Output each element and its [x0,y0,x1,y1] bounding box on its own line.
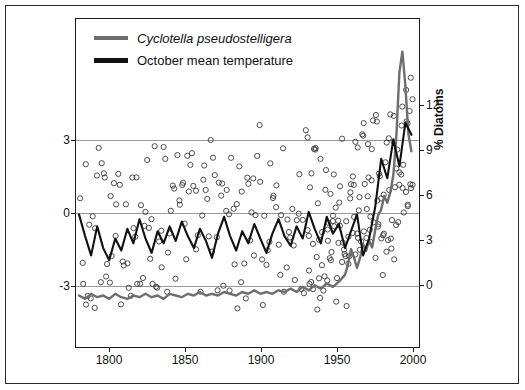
scatter-point [251,253,256,258]
y-tick-right-3: 3 [426,233,433,247]
legend-label-cyclotella: Cyclotella pseudostelligera [137,31,292,46]
tickmark-right-9 [419,150,424,151]
scatter-point [239,189,244,194]
scatter-point [148,256,153,261]
scatter-point [369,147,374,152]
scatter-point [392,257,397,262]
scatter-point [165,250,170,255]
scatter-point [329,249,334,254]
scatter-point [237,164,242,169]
scatter-point [319,263,324,268]
y-axis-right-title: % Diatoms [432,0,450,150]
scatter-point [325,278,330,283]
scatter-points-group [78,75,416,312]
scatter-point [83,302,88,307]
scatter-point [373,255,378,260]
scatter-point [301,291,306,296]
scatter-point [161,144,166,149]
scatter-point [258,179,263,184]
scatter-point [303,128,308,133]
scatter-point [235,306,240,311]
scatter-point [80,260,85,265]
scatter-point [309,171,314,176]
scatter-point [279,213,284,218]
y-tick-right-1: 9 [426,143,433,157]
scatter-point [300,217,305,222]
scatter-point [389,246,394,251]
scatter-point [229,155,234,160]
scatter-point [208,137,213,142]
scatter-point [334,299,339,304]
y-tick-left-0: 3 [63,133,70,147]
scatter-point [364,206,369,211]
scatter-point [111,181,116,186]
scatter-point [246,181,251,186]
scatter-point [297,172,302,177]
tickmark-right-6 [419,195,424,196]
scatter-point [274,205,279,210]
scatter-point [231,206,236,211]
x-tick-0: 1800 [96,353,123,367]
scatter-point [104,262,109,267]
scatter-point [260,302,265,307]
scatter-point [108,194,113,199]
scatter-point [226,212,231,217]
scatter-point [305,135,310,140]
scatter-point [262,213,267,218]
scatter-point [353,139,358,144]
scatter-point [193,188,198,193]
scatter-point [284,265,289,270]
scatter-point [155,285,160,290]
scatter-point [159,228,164,233]
scatter-point [186,189,191,194]
scatter-point [361,121,366,126]
scatter-point [242,261,247,266]
scatter-point [306,268,311,273]
scatter-point [202,163,207,168]
scatter-point [384,249,389,254]
scatter-point [99,161,104,166]
scatter-point [98,280,103,285]
scatter-point [143,209,148,214]
scatter-point [281,146,286,151]
legend-swatch-cyclotella [94,36,128,40]
scatter-point [336,218,341,223]
scatter-point [318,156,323,161]
scatter-point [369,178,374,183]
scatter-point [159,265,164,270]
tickmark-x-2000 [413,347,414,352]
scatter-point [188,162,193,167]
scatter-point [173,276,178,281]
scatter-point [96,145,101,150]
legend: Cyclotella pseudostelligera October mean… [94,27,344,71]
x-tick-1: 1850 [172,353,199,367]
scatter-point [138,203,143,208]
scatter-point [117,182,122,187]
y-tick-left-1: 0 [63,206,70,220]
scatter-point [104,274,109,279]
y-tick-right-2: 6 [426,188,433,202]
scatter-point [203,187,208,192]
scatter-point [215,288,220,293]
legend-item-october-temperature: October mean temperature [94,49,344,71]
scatter-point [234,202,239,207]
scatter-point [366,175,371,180]
x-tick-3: 1950 [324,353,351,367]
scatter-point [175,153,180,158]
scatter-point [325,227,330,232]
scatter-point [316,276,321,281]
tickmark-right-12 [419,105,424,106]
legend-label-october-temperature: October mean temperature [137,53,293,68]
chart-figure: Deviation from mean (°C) % Diatoms 3 0 -… [0,0,525,390]
scatter-point [206,234,211,239]
scatter-point [401,162,406,167]
scatter-point [260,257,265,262]
y-tick-left-2: -3 [59,279,70,293]
scatter-point [168,208,173,213]
scatter-point [314,254,319,259]
scatter-point [323,168,328,173]
scatter-point [210,155,215,160]
y-tick-right-0: 12 [426,98,439,112]
scatter-point [264,262,269,267]
series-line-cyclotella [79,52,411,299]
